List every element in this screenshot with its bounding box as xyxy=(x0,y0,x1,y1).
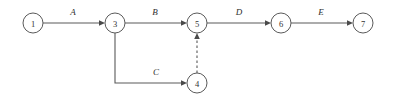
network-diagram-canvas: A B D E C xyxy=(0,0,396,101)
edge-c: C xyxy=(115,33,187,86)
edge-a-arrowhead xyxy=(99,20,105,26)
edge-d: D xyxy=(207,7,271,26)
node-5[interactable]: 5 xyxy=(187,13,207,33)
edge-e-label: E xyxy=(317,7,324,17)
node-3[interactable]: 3 xyxy=(105,13,125,33)
node-6[interactable]: 6 xyxy=(271,13,291,33)
node-1[interactable]: 1 xyxy=(23,13,43,33)
edge-b-label: B xyxy=(152,7,158,17)
network-diagram: A B D E C xyxy=(0,0,396,101)
node-7[interactable]: 7 xyxy=(353,13,373,33)
node-7-label: 7 xyxy=(361,19,365,29)
edge-c-arrowhead xyxy=(181,80,187,86)
edge-e: E xyxy=(291,7,353,26)
edge-a-label: A xyxy=(69,7,76,17)
edge-dummy xyxy=(194,33,200,73)
edge-d-label: D xyxy=(235,7,243,17)
node-3-label: 3 xyxy=(113,19,117,29)
node-5-label: 5 xyxy=(195,19,199,29)
edge-c-label: C xyxy=(153,67,160,77)
edge-b: B xyxy=(125,7,187,26)
edge-e-arrowhead xyxy=(347,20,353,26)
node-1-label: 1 xyxy=(31,19,35,29)
node-4[interactable]: 4 xyxy=(187,73,207,93)
node-6-label: 6 xyxy=(279,19,283,29)
edge-a: A xyxy=(43,7,105,26)
edge-d-arrowhead xyxy=(265,20,271,26)
edge-c-line xyxy=(115,33,182,83)
edge-dummy-arrowhead xyxy=(194,33,200,39)
edge-b-arrowhead xyxy=(181,20,187,26)
